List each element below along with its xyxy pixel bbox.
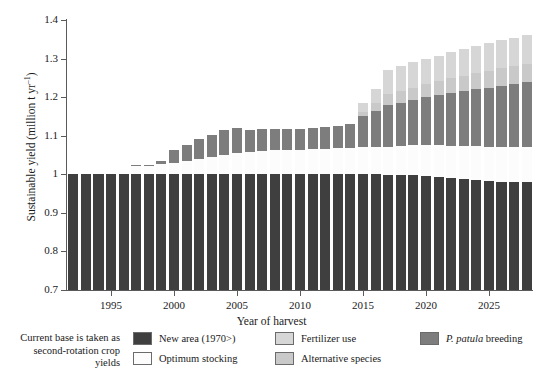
bar-segment — [333, 148, 343, 174]
legend-item[interactable]: P. patula breeding — [420, 332, 523, 345]
bar-segment — [81, 174, 91, 290]
bar-segment — [156, 174, 166, 290]
bar-segment — [345, 124, 355, 148]
bar-segment — [471, 89, 481, 146]
bar-segment — [396, 91, 406, 103]
y-axis-title-tail: ) — [25, 72, 37, 76]
bar-column — [408, 20, 418, 290]
bar-segment — [308, 149, 318, 174]
bar-column — [81, 20, 91, 290]
legend-item-label: Optimum stocking — [159, 353, 237, 365]
bar-segment — [169, 150, 179, 162]
bar-segment — [371, 103, 381, 111]
bar-segment — [383, 94, 393, 105]
bar-column — [459, 20, 469, 290]
bar-segment — [282, 129, 292, 150]
bar-column — [68, 20, 78, 290]
legend-item[interactable]: Optimum stocking — [133, 352, 237, 365]
bar-segment — [396, 103, 406, 146]
legend-swatch-icon — [275, 332, 294, 345]
x-tick-mark — [237, 290, 238, 296]
bar-segment — [396, 66, 406, 91]
bar-segment — [434, 95, 444, 145]
bar-segment — [471, 46, 481, 73]
bar-column — [93, 20, 103, 290]
bar-column — [333, 20, 343, 290]
y-tick-label: 1.4 — [0, 14, 58, 25]
bar-column — [320, 20, 330, 290]
y-axis-title-superscript: –1 — [23, 76, 32, 84]
legend-item-label: Fertilizer use — [301, 333, 356, 345]
bar-column — [182, 20, 192, 290]
bar-column — [371, 20, 381, 290]
bar-segment — [270, 129, 280, 151]
bar-segment — [408, 145, 418, 175]
bar-column — [522, 20, 532, 290]
bar-segment — [509, 66, 519, 84]
bar-segment — [295, 174, 305, 290]
bar-column — [270, 20, 280, 290]
legend-item[interactable]: Alternative species — [275, 352, 381, 365]
bar-segment — [484, 43, 494, 71]
bar-segment — [509, 84, 519, 146]
bar-segment — [333, 126, 343, 148]
plot-area — [67, 20, 533, 290]
legend-item[interactable]: Fertilizer use — [275, 332, 356, 345]
bar-segment — [471, 180, 481, 290]
x-tick-label: 1995 — [81, 299, 141, 311]
bar-segment — [333, 174, 343, 290]
bar-segment — [144, 166, 154, 174]
bar-column — [308, 20, 318, 290]
bar-column — [119, 20, 129, 290]
bar-segment — [522, 64, 532, 82]
bar-segment — [131, 174, 141, 290]
legend-swatch-icon — [420, 332, 439, 345]
bar-column — [484, 20, 494, 290]
bar-segment — [446, 78, 456, 93]
bar-column — [509, 20, 519, 290]
bar-segment — [232, 128, 242, 153]
bar-segment — [144, 165, 154, 166]
x-tick-label: 2025 — [459, 299, 519, 311]
bar-segment — [396, 146, 406, 175]
bar-segment — [371, 89, 381, 103]
bar-column — [282, 20, 292, 290]
bar-segment — [434, 145, 444, 177]
bar-column — [169, 20, 179, 290]
bar-segment — [245, 174, 255, 290]
bar-segment — [496, 68, 506, 85]
legend-swatch-icon — [275, 352, 294, 365]
bar-segment — [345, 148, 355, 174]
bar-segment — [446, 146, 456, 178]
bar-segment — [194, 139, 204, 159]
bar-segment — [509, 182, 519, 290]
bar-column — [245, 20, 255, 290]
legend-item[interactable]: New area (1970>) — [133, 332, 235, 345]
bar-segment — [358, 116, 368, 147]
bar-segment — [434, 177, 444, 290]
bar-segment — [446, 52, 456, 78]
bar-segment — [459, 91, 469, 146]
bar-segment — [207, 157, 217, 174]
y-tick-label: 1.3 — [0, 53, 58, 64]
bar-segment — [421, 84, 431, 97]
bar-segment — [408, 62, 418, 87]
bar-segment — [144, 174, 154, 290]
bar-segment — [509, 38, 519, 67]
y-tick-label: 1 — [0, 168, 58, 179]
bar-segment — [408, 100, 418, 146]
bar-segment — [383, 70, 393, 94]
bar-column — [446, 20, 456, 290]
x-tick-mark — [363, 290, 364, 296]
bar-segment — [496, 86, 506, 147]
bar-column — [358, 20, 368, 290]
y-tick-label: 1.2 — [0, 91, 58, 102]
bar-column — [219, 20, 229, 290]
bar-column — [106, 20, 116, 290]
bar-segment — [308, 174, 318, 290]
bar-segment — [169, 174, 179, 290]
bar-segment — [358, 103, 368, 112]
x-tick-label: 2010 — [270, 299, 330, 311]
bar-segment — [371, 147, 381, 175]
bar-segment — [522, 147, 532, 182]
